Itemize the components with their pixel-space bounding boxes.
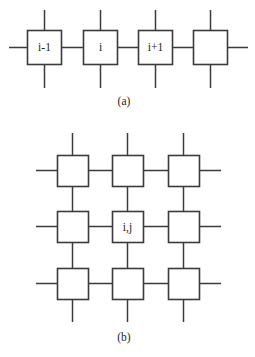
lattice-node-box-r3c1[interactable] [58, 269, 89, 300]
figure-root: i-1 i i+1 (a) [0, 0, 255, 357]
lattice-node-box-r1c1[interactable] [58, 156, 89, 187]
lattice-node-box-r1c2[interactable] [113, 156, 144, 187]
panel-b-caption: (b) [117, 331, 131, 344]
chain-node-box-4[interactable] [194, 31, 228, 65]
panel-a-group: i-1 i i+1 (a) [9, 10, 248, 108]
lattice-node-box-r2c3[interactable] [169, 212, 200, 243]
panel-b-group: i,j (b) [36, 133, 221, 344]
chain-node-label-3: i+1 [148, 41, 164, 53]
lattice-node-box-r3c2[interactable] [113, 269, 144, 300]
lattice-figure: i-1 i i+1 (a) [0, 0, 255, 357]
chain-node-label-1: i-1 [38, 41, 51, 53]
lattice-node-box-r3c3[interactable] [169, 269, 200, 300]
lattice-center-label: i,j [123, 221, 132, 234]
panel-a-caption: (a) [118, 95, 131, 108]
lattice-node-box-r2c1[interactable] [58, 212, 89, 243]
lattice-node-box-r1c3[interactable] [169, 156, 200, 187]
chain-node-label-2: i [99, 41, 102, 53]
